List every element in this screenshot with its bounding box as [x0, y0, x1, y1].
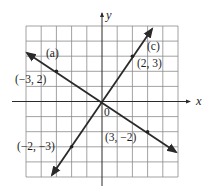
line-a-label: (a)	[46, 47, 59, 60]
point-3-neg2-label: (3, −2)	[105, 131, 137, 144]
coordinate-plane: x y 0 (a) (c) (−3, 2) (3, −2) (2, 3) (−2…	[0, 0, 215, 194]
point-neg2-neg3-label: (−2, −3)	[17, 140, 55, 153]
point-3-neg2	[146, 130, 150, 134]
x-axis-label: x	[195, 94, 202, 108]
point-neg3-2-label: (−3, 2)	[15, 73, 47, 86]
point-2-3	[131, 54, 135, 58]
point-neg3-2	[55, 70, 59, 74]
line-c-label: (c)	[147, 40, 160, 53]
point-neg2-neg3	[70, 145, 74, 149]
point-2-3-label: (2, 3)	[137, 57, 162, 70]
y-axis-label: y	[104, 8, 112, 22]
